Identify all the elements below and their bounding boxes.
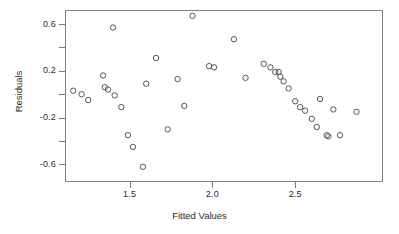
scatter-plot: -0.6-0.20.20.6 1.52.02.5 Residuals Fitte… [0, 0, 399, 234]
y-axis-tick [59, 47, 65, 48]
y-axis-tick [59, 118, 65, 119]
y-axis-tick-label: -0.6 [0, 160, 56, 169]
y-axis-tick [59, 24, 65, 25]
y-axis-tick-label: 0.6 [0, 20, 56, 29]
x-axis-tick [130, 182, 131, 188]
x-axis-tick-label: 2.0 [192, 190, 232, 199]
y-axis-title: Residuals [13, 52, 24, 132]
y-axis-tick-label: 0.2 [0, 66, 56, 75]
x-axis-tick-label: 1.5 [110, 190, 150, 199]
x-axis-tick [295, 182, 296, 188]
y-axis-tick-label: -0.2 [0, 113, 56, 122]
x-axis-title: Fitted Values [0, 210, 399, 221]
x-axis-tick-label: 2.5 [275, 190, 315, 199]
y-axis-tick [59, 141, 65, 142]
x-axis-tick [212, 182, 213, 188]
plot-frame [65, 10, 383, 182]
y-axis-tick [59, 94, 65, 95]
y-axis-tick [59, 71, 65, 72]
y-axis-tick [59, 164, 65, 165]
